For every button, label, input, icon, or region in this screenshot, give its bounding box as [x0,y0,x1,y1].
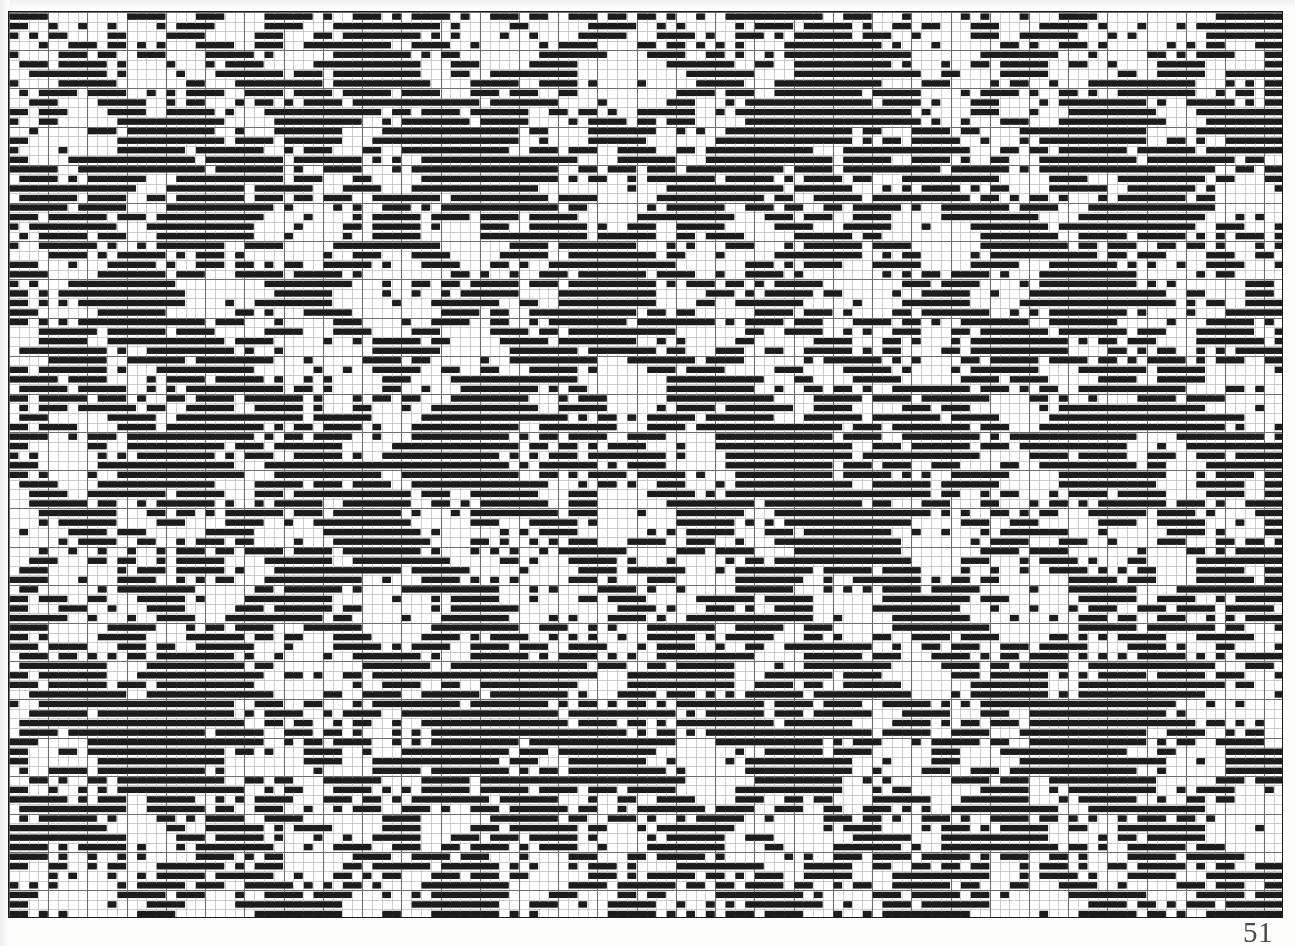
weaving-draft-canvas[interactable] [9,12,1283,918]
scanned-page: 51 [0,0,1295,946]
scan-edge-top [0,0,1295,9]
page-number: 51 [1243,918,1273,946]
weaving-draft-grid[interactable] [8,11,1283,918]
